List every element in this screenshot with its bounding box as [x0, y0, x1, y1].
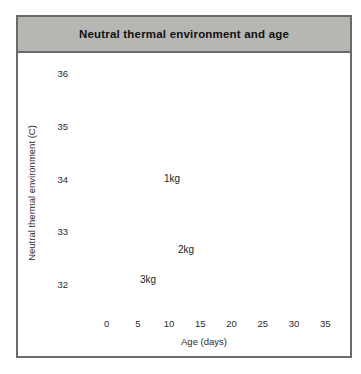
figure-card: Neutral thermal environment and age — [16, 15, 352, 358]
figure-title-bar: Neutral thermal environment and age — [18, 17, 350, 53]
chart-title: Neutral thermal environment and age — [79, 28, 289, 40]
